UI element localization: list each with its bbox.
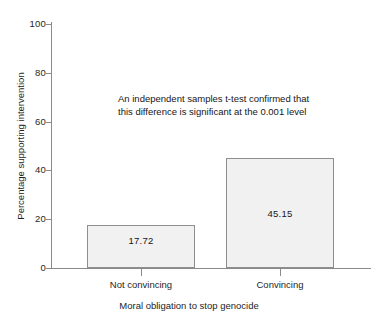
significance-annotation: An independent samples t-test confirmed … bbox=[118, 92, 309, 118]
x-axis-title: Moral obligation to stop genocide bbox=[0, 300, 378, 311]
y-tick-80 bbox=[46, 73, 52, 74]
y-axis-line bbox=[51, 22, 52, 269]
x-tick-not-convincing bbox=[141, 269, 142, 276]
annotation-line-2: this difference is significant at the 0.… bbox=[118, 105, 309, 118]
y-tick-60 bbox=[46, 122, 52, 123]
x-tick-convincing bbox=[280, 269, 281, 276]
y-tick-0 bbox=[46, 268, 52, 269]
y-tick-20 bbox=[46, 219, 52, 220]
bar-not-convincing bbox=[87, 225, 195, 268]
y-axis-title: Percentage supporting intervention bbox=[14, 24, 28, 268]
y-tick-100 bbox=[46, 24, 52, 25]
y-tick-40 bbox=[46, 170, 52, 171]
x-axis-line bbox=[47, 268, 371, 269]
clipped-text-artifact bbox=[0, 0, 378, 5]
x-tick-label-convincing: Convincing bbox=[257, 279, 304, 290]
annotation-line-1: An independent samples t-test confirmed … bbox=[118, 92, 309, 105]
bar-value-convincing: 45.15 bbox=[268, 208, 293, 219]
x-tick-label-not-convincing: Not convincing bbox=[110, 279, 172, 290]
chart-screenshot: 100 80 60 40 20 0 Percentage supporting … bbox=[0, 0, 378, 321]
bar-value-not-convincing: 17.72 bbox=[129, 235, 154, 246]
